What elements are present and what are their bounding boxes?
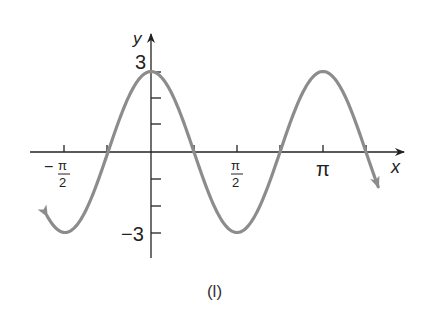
x-axis-label: x [390, 157, 401, 177]
neg-sign: − [44, 158, 53, 175]
neg-half-pi-den: 2 [59, 175, 66, 190]
y-axis-label: y [132, 29, 143, 48]
neg-half-pi-num: π [58, 158, 67, 173]
y-max-label: 3 [135, 51, 146, 73]
half-pi-den: 2 [232, 175, 239, 190]
pi-label: π [316, 158, 330, 180]
cosine-graph: y 3 −3 x − π 2 π 2 π [0, 0, 429, 313]
figure-caption: (l) [0, 282, 429, 302]
y-min-label: −3 [121, 223, 144, 245]
half-pi-num: π [231, 158, 240, 173]
